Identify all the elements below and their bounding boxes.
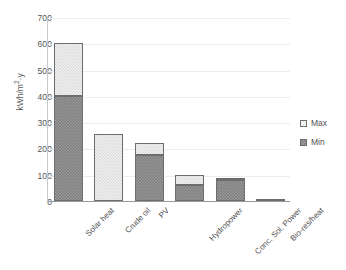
x-axis-tick-label: Solar heat bbox=[84, 206, 116, 238]
plot-area bbox=[47, 18, 290, 202]
x-axis-tick-label: PV bbox=[157, 206, 171, 220]
y-axis-title-superscript: 2 bbox=[13, 80, 20, 84]
bar-segment-min bbox=[216, 180, 245, 201]
bar-segment-min bbox=[175, 185, 204, 201]
bar-segment-max bbox=[256, 199, 285, 201]
bar-segment-min bbox=[135, 155, 164, 201]
legend-swatch-min-icon bbox=[300, 139, 307, 146]
bar-series bbox=[48, 18, 290, 201]
bar-segment-max bbox=[175, 175, 204, 186]
legend-item-min: Min bbox=[300, 137, 327, 147]
bar-segment-max bbox=[135, 143, 164, 155]
legend-item-max: Max bbox=[300, 118, 327, 128]
x-axis-tick-label: Hydropower bbox=[207, 206, 244, 243]
bar-segment-min bbox=[54, 96, 83, 201]
legend-label-min: Min bbox=[311, 137, 325, 147]
legend-label-max: Max bbox=[311, 118, 327, 128]
legend: Max Min bbox=[300, 118, 327, 156]
x-axis-tick-label: Crude oil bbox=[123, 206, 152, 235]
bar-segment-max bbox=[54, 43, 83, 96]
legend-swatch-max-icon bbox=[300, 120, 307, 127]
chart-container: kWh/m2·y 0100200300400500600700 Solar he… bbox=[0, 0, 346, 270]
bar-segment-max bbox=[94, 134, 123, 201]
